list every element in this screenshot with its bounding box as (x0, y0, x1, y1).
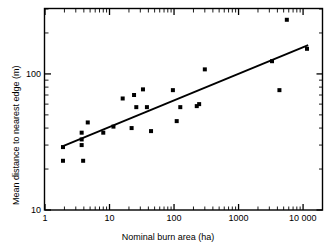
x-tick-label: 100 (167, 213, 182, 223)
data-point (141, 87, 145, 91)
data-point (81, 159, 85, 163)
data-point (80, 143, 84, 147)
x-tick-label: 1 (43, 213, 48, 223)
x-axis-ticks (45, 9, 323, 210)
x-tick-label: 1000 (229, 213, 249, 223)
data-point (171, 88, 175, 92)
data-point (61, 145, 65, 149)
data-point (130, 126, 134, 130)
x-tick-label: 10 000 (289, 213, 317, 223)
data-point (149, 129, 153, 133)
y-axis-ticks (45, 9, 323, 210)
data-point (61, 159, 65, 163)
data-point (121, 96, 125, 100)
data-point (285, 18, 289, 22)
y-tick-label: 10 (31, 205, 41, 215)
data-point (175, 119, 179, 123)
y-axis-title: Mean distance to nearest edge (m) (11, 65, 21, 205)
data-points (61, 18, 309, 163)
axes-frame (45, 9, 323, 211)
x-tick-label: 10 (105, 213, 115, 223)
y-tick-label: 100 (26, 69, 41, 79)
data-point (80, 137, 84, 141)
data-point (86, 120, 90, 124)
data-point (145, 105, 149, 109)
data-point (305, 47, 309, 51)
figure: 110100100010 000 10100 Nominal burn area… (0, 0, 336, 251)
data-point (132, 93, 136, 97)
data-point (197, 102, 201, 106)
data-point (178, 105, 182, 109)
data-point (134, 105, 138, 109)
data-point (111, 125, 115, 129)
data-point (270, 59, 274, 63)
x-axis-title: Nominal burn area (ha) (0, 232, 336, 242)
plot-frame (45, 9, 323, 211)
data-point (277, 88, 281, 92)
data-point (203, 67, 207, 71)
data-point (80, 131, 84, 135)
data-point (101, 131, 105, 135)
